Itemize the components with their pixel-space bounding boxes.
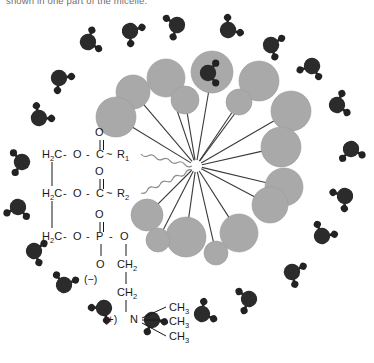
- hydrogen-atom: [312, 219, 322, 229]
- oxygen-atom: [311, 225, 333, 247]
- water-molecule: [213, 12, 245, 45]
- choline-ch2-lower: CH2: [117, 286, 137, 301]
- water-molecule: [49, 271, 80, 297]
- water-molecule: [10, 148, 32, 176]
- phosphoryl-oxygen: O: [95, 208, 104, 220]
- hydrogen-atom: [31, 101, 41, 111]
- water-molecule: [76, 25, 104, 57]
- hydrogen-atom: [337, 89, 346, 98]
- hydrogen-atom: [87, 25, 96, 34]
- water-molecule: [188, 297, 218, 330]
- lipid-head-group: [252, 187, 288, 223]
- hydrogen-atom: [329, 229, 339, 239]
- choline-ch2-upper: CH2: [117, 258, 137, 273]
- hydrogen-atom: [159, 317, 169, 327]
- water-molecule: [326, 89, 352, 120]
- c3-bond-2: -: [86, 230, 90, 242]
- hydrogen-atom: [240, 306, 249, 315]
- hydrogen-atom: [212, 60, 219, 67]
- methyl-group-3: CH3: [169, 330, 189, 345]
- water-molecule: [279, 256, 308, 289]
- water-molecule: [295, 54, 327, 82]
- hydrogen-atom: [137, 22, 147, 32]
- phosphate-lower-oxygen: O: [96, 258, 105, 270]
- hydrogen-atom: [126, 38, 136, 48]
- c2-tilde: ~: [106, 187, 112, 199]
- c3-ester-oxygen: O: [73, 230, 82, 242]
- water-molecule: [44, 63, 77, 96]
- water-molecule: [306, 219, 339, 249]
- phosphate-negative-charge: (−): [84, 273, 97, 285]
- lipid-head-group: [166, 217, 206, 257]
- water-molecule: [336, 139, 366, 163]
- hydrogen-atom: [328, 187, 338, 197]
- oxygen-atom: [191, 303, 213, 325]
- c1-bond-1: -: [63, 148, 67, 160]
- oxygen-atom: [47, 66, 70, 89]
- lipid-head-group: [171, 86, 199, 114]
- c1-ester-oxygen: O: [73, 148, 82, 160]
- c1-r-group: R1: [117, 148, 129, 163]
- choline-positive-charge: (+): [104, 313, 117, 325]
- water-molecule: [3, 197, 33, 221]
- water-molecule: [259, 30, 287, 62]
- quaternary-nitrogen: N: [130, 313, 138, 325]
- c1-tilde: ~: [106, 148, 112, 160]
- c1-bond-2: -: [86, 148, 90, 160]
- water-molecule: [136, 306, 169, 336]
- hydrogen-atom: [169, 32, 178, 41]
- hydrogen-atom: [52, 85, 62, 95]
- hydrogen-atom: [66, 71, 76, 81]
- c2-bond-2: -: [86, 187, 90, 199]
- lipid-head-group: [271, 91, 311, 131]
- lipid-head-group: [131, 199, 163, 231]
- lipid-tail-line: [201, 169, 255, 197]
- lipid-tail-line: [199, 171, 229, 218]
- hydrogen-atom: [86, 302, 96, 312]
- c1-left-group: H2C: [42, 148, 62, 163]
- lipid-head-group: [226, 89, 252, 115]
- water-molecule: [116, 15, 147, 48]
- c2-carbonyl-oxygen: O: [95, 165, 104, 177]
- p-bond-3: -: [109, 230, 113, 242]
- hydrogen-atom: [46, 113, 56, 123]
- oxygen-atom: [216, 18, 239, 41]
- lipid-head-group: [146, 228, 170, 252]
- p-ester-oxygen: O: [120, 230, 129, 242]
- hydrogen-atom: [212, 79, 219, 86]
- wavy-tail-lines: [141, 154, 192, 193]
- c2-r-group: R2: [117, 187, 129, 202]
- water-molecule: [23, 101, 56, 133]
- hydrogen-atom: [235, 28, 245, 38]
- wavy-tail-line: [141, 154, 192, 167]
- lipid-tail-line: [132, 127, 191, 163]
- hydrogen-atom: [71, 276, 80, 285]
- hydrogen-atom: [3, 209, 11, 217]
- lipid-head-group: [261, 127, 301, 167]
- c3-bond-1: -: [63, 230, 67, 242]
- c2-left-group: H2C: [42, 187, 62, 202]
- hydrogen-atom: [34, 258, 43, 267]
- hydrogen-atom: [209, 314, 219, 324]
- c2-ester-oxygen: O: [73, 187, 82, 199]
- hydrogen-atom: [290, 279, 300, 289]
- oxygen-atom: [334, 185, 357, 208]
- c2-bond-1: -: [63, 187, 67, 199]
- hydrogen-atom: [199, 297, 209, 307]
- lipid-head-group: [204, 241, 228, 265]
- lipid-tail-line: [158, 170, 192, 204]
- c1-carbonyl-oxygen: O: [95, 126, 104, 138]
- oxygen-atom: [200, 65, 216, 81]
- hydrogen-atom: [270, 52, 279, 61]
- figure-canvas: shown in one part of the micelle. H2C - …: [0, 0, 374, 363]
- oxygen-atom: [27, 106, 50, 129]
- micelle-diagram: H2C - O - C O ~ R1 H2C - O - C O: [0, 0, 374, 363]
- hydrogen-atom: [339, 203, 349, 213]
- hydrogen-atom: [222, 12, 232, 22]
- hydrogen-atom: [358, 151, 366, 159]
- lipid-tail-line: [202, 167, 267, 182]
- methyl-group-2: CH3: [169, 315, 189, 330]
- oxygen-atom: [281, 261, 303, 283]
- hydrogen-atom: [295, 65, 304, 74]
- oxygen-atom: [119, 20, 142, 43]
